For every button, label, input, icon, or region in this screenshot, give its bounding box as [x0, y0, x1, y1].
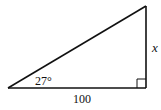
base-label: 100: [73, 92, 91, 106]
angle-label: 27°: [35, 74, 52, 88]
side-label-x: x: [151, 40, 158, 55]
right-triangle-diagram: 27° 100 x: [0, 0, 161, 110]
hypotenuse: [8, 6, 146, 88]
right-angle-marker: [137, 79, 146, 88]
triangle: [8, 6, 146, 88]
